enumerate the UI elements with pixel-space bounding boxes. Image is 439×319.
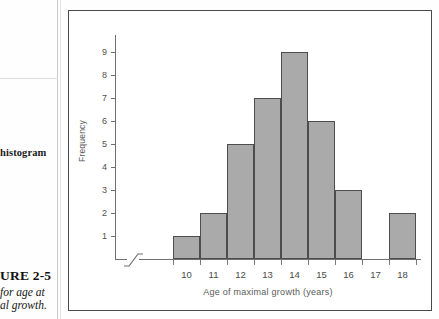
margin-hairline xyxy=(0,78,58,79)
x-axis-tick-label: 14 xyxy=(283,270,307,280)
figure-number: URE 2-5 xyxy=(0,268,56,283)
figure-description-line-1: for age at xyxy=(0,286,56,299)
x-axis-line xyxy=(139,259,421,260)
histogram-bar xyxy=(281,52,308,259)
histogram-bar xyxy=(173,236,200,259)
histogram-bar xyxy=(254,98,281,259)
x-axis-tick-label: 11 xyxy=(202,270,226,280)
y-axis-tick xyxy=(111,52,116,53)
x-axis-title: Age of maximal growth (years) xyxy=(115,287,421,297)
y-axis-tick-label: 3 xyxy=(93,186,107,195)
y-axis-tick xyxy=(111,75,116,76)
histogram-plot-area: Frequency 123456789 101112131415161718 A… xyxy=(69,11,433,312)
x-axis-tick xyxy=(173,260,174,265)
x-axis-tick-label: 17 xyxy=(364,270,388,280)
x-axis-tick xyxy=(416,260,417,265)
y-axis-tick-label: 6 xyxy=(93,117,107,126)
y-axis-tick-label: 4 xyxy=(93,163,107,172)
x-axis-tick xyxy=(389,260,390,265)
histogram-bar xyxy=(308,121,335,259)
x-axis-tick xyxy=(362,260,363,265)
y-axis-tick xyxy=(111,190,116,191)
y-axis-tick-label: 8 xyxy=(93,71,107,80)
x-axis-tick xyxy=(335,260,336,265)
figure-caption: URE 2-5 for age at al growth. xyxy=(0,268,56,312)
histogram-bar xyxy=(389,213,416,259)
x-axis-tick-label: 10 xyxy=(175,270,199,280)
x-axis-tick-label: 16 xyxy=(337,270,361,280)
y-axis-tick xyxy=(111,213,116,214)
margin-keyword-histogram: histogram xyxy=(0,147,54,158)
y-axis-tick-label: 2 xyxy=(93,209,107,218)
x-axis-tick-label: 18 xyxy=(391,270,415,280)
y-axis-tick xyxy=(111,236,116,237)
x-axis-tick xyxy=(308,260,309,265)
x-axis-tick xyxy=(227,260,228,265)
x-axis-tick-label: 12 xyxy=(229,270,253,280)
y-axis-tick-label: 9 xyxy=(93,48,107,57)
y-axis-tick-label: 7 xyxy=(93,94,107,103)
page-margin-rule-inner xyxy=(60,0,61,319)
y-axis-title: Frequency xyxy=(77,111,87,171)
histogram-bar xyxy=(335,190,362,259)
y-axis-tick-label: 5 xyxy=(93,140,107,149)
x-axis-tick xyxy=(200,260,201,265)
y-axis-tick-label: 1 xyxy=(93,232,107,241)
y-axis-line xyxy=(115,35,116,260)
y-axis-tick xyxy=(111,167,116,168)
y-axis-tick xyxy=(111,98,116,99)
histogram-bar xyxy=(227,144,254,259)
y-axis-tick xyxy=(111,121,116,122)
x-axis-tick xyxy=(281,260,282,265)
figure-frame: Frequency 123456789 101112131415161718 A… xyxy=(68,10,432,311)
x-axis-tick xyxy=(254,260,255,265)
histogram-bar xyxy=(200,213,227,259)
axis-break-icon xyxy=(124,252,144,268)
y-axis-tick xyxy=(111,144,116,145)
page-margin-rule xyxy=(57,0,58,319)
x-axis-tick-label: 13 xyxy=(256,270,280,280)
figure-description-line-2: al growth. xyxy=(0,299,56,312)
x-axis-tick-label: 15 xyxy=(310,270,334,280)
